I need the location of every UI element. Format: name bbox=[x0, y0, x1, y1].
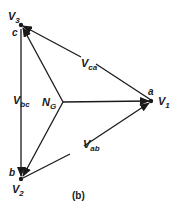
line-vab bbox=[84, 103, 149, 146]
phase-line-b bbox=[23, 102, 63, 176]
label-vca: Vca bbox=[81, 57, 98, 72]
line-vca-tail bbox=[96, 64, 151, 100]
line-vab-tail bbox=[23, 154, 70, 178]
phase-line-a bbox=[63, 101, 149, 102]
phasor-diagram: V3 c b V2 a V1 NG Vca Vbc Vab (b) bbox=[0, 0, 177, 211]
label-vab: Vab bbox=[83, 138, 100, 153]
label-neutral: NG bbox=[42, 96, 56, 111]
node-a-dot bbox=[149, 99, 153, 103]
figure-caption: (b) bbox=[72, 190, 85, 201]
label-v3: V3 bbox=[8, 10, 20, 25]
label-c: c bbox=[12, 27, 18, 38]
label-a: a bbox=[148, 86, 154, 97]
label-b: b bbox=[9, 167, 15, 178]
node-b-dot bbox=[19, 177, 23, 181]
phase-line-c bbox=[23, 28, 63, 102]
label-v1: V1 bbox=[158, 95, 170, 110]
line-vca bbox=[23, 26, 81, 57]
label-v2: V2 bbox=[12, 183, 24, 198]
